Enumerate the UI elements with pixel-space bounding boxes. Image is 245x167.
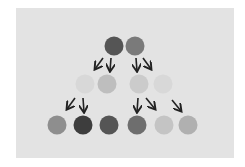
node-circle-r3a	[48, 116, 67, 135]
arrow-icon	[137, 98, 138, 112]
arrow-icon	[146, 98, 155, 109]
node-circle-r1a	[105, 37, 124, 56]
node-circle-r2c	[130, 75, 149, 94]
node-circle-r3f	[179, 116, 198, 135]
node-circle-r2a	[76, 75, 95, 94]
arrow-icon	[172, 100, 181, 111]
tree-diagram	[0, 0, 245, 167]
arrow-icon	[67, 98, 75, 109]
arrow-icon	[110, 58, 111, 71]
node-circle-r2d	[154, 75, 173, 94]
node-circle-r3d	[128, 116, 147, 135]
node-circle-r3b	[74, 116, 93, 135]
arrow-icon	[83, 98, 84, 112]
arrow-icon	[143, 58, 151, 69]
node-circle-r2b	[98, 75, 117, 94]
node-circle-r1b	[126, 37, 145, 56]
node-circle-r3c	[100, 116, 119, 135]
node-circle-r3e	[155, 116, 174, 135]
arrow-icon	[136, 58, 137, 71]
nodes-group	[48, 37, 198, 135]
arrow-icon	[95, 58, 103, 69]
